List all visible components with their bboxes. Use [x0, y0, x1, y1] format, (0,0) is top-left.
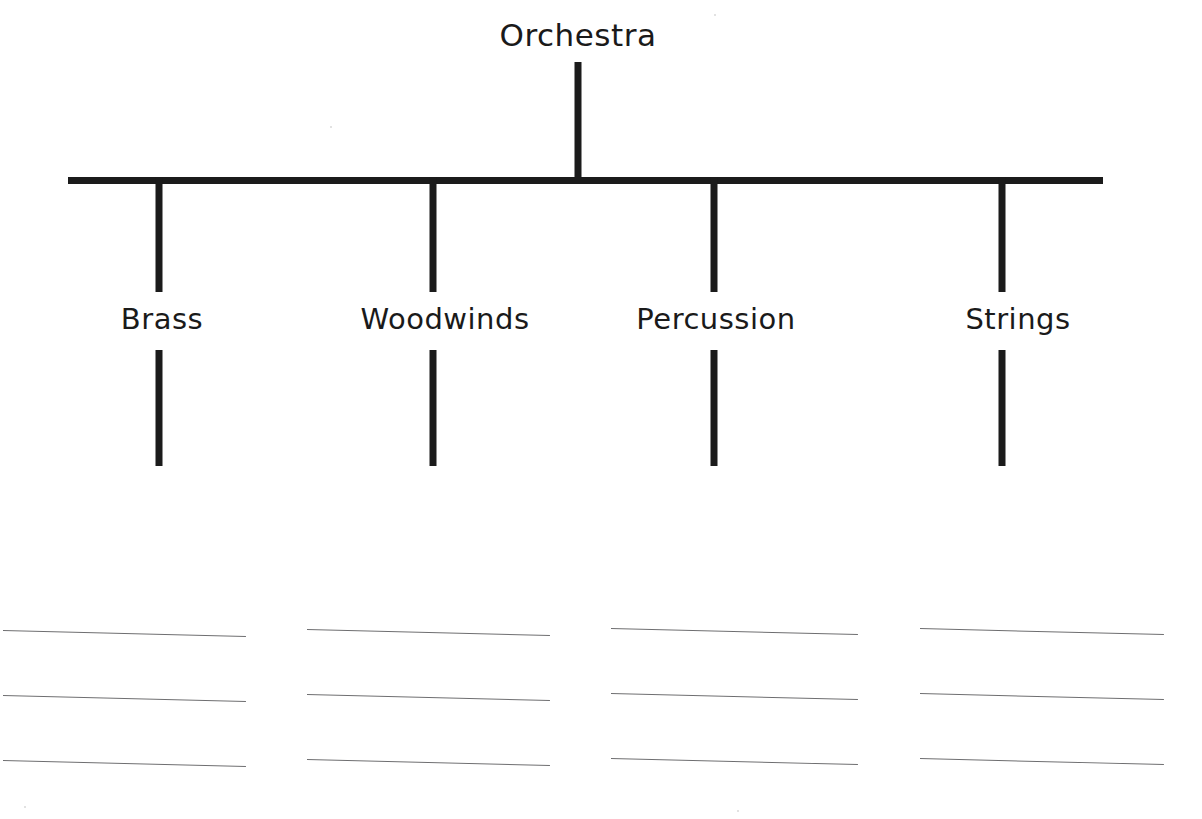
scan-artifact-speck: [737, 810, 739, 812]
branch-label-strings: Strings: [965, 302, 1070, 336]
answer-line[interactable]: [920, 758, 1164, 765]
branch-stem-upper-brass: [156, 177, 163, 292]
answer-line[interactable]: [611, 693, 858, 700]
branch-stem-upper-percussion: [711, 177, 718, 292]
answer-line[interactable]: [611, 628, 858, 635]
branch-stem-upper-woodwinds: [430, 177, 437, 292]
root-node-label-orchestra: Orchestra: [500, 17, 657, 53]
answer-line[interactable]: [3, 695, 246, 702]
branch-stem-lower-percussion: [711, 350, 718, 466]
answer-line[interactable]: [920, 628, 1164, 635]
branch-label-brass: Brass: [121, 302, 203, 336]
branch-stem-upper-strings: [999, 177, 1006, 292]
answer-line[interactable]: [307, 694, 550, 701]
scan-artifact-speck: [330, 126, 332, 128]
answer-line[interactable]: [3, 630, 246, 637]
answer-line[interactable]: [307, 759, 550, 766]
scan-artifact-speck: [714, 14, 716, 16]
worksheet-page: Orchestra Brass Woodwinds Percussion Str…: [0, 0, 1202, 819]
branch-label-percussion: Percussion: [636, 302, 795, 336]
horizontal-connector-bar: [68, 177, 1103, 184]
branch-stem-lower-woodwinds: [430, 350, 437, 466]
answer-line[interactable]: [611, 758, 858, 765]
branch-stem-lower-strings: [999, 350, 1006, 466]
scan-artifact-speck: [24, 806, 26, 808]
orchestra-tree-diagram: Orchestra Brass Woodwinds Percussion Str…: [0, 0, 1202, 500]
root-stem: [575, 62, 582, 180]
answer-line[interactable]: [920, 693, 1164, 700]
branch-stem-lower-brass: [156, 350, 163, 466]
answer-line[interactable]: [3, 760, 246, 767]
answer-line[interactable]: [307, 629, 550, 636]
branch-label-woodwinds: Woodwinds: [360, 302, 529, 336]
